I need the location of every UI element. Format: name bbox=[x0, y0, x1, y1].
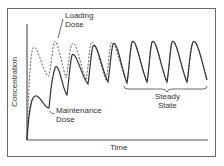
loading-dose-leader bbox=[58, 19, 63, 38]
loading-dose-label-1: Loading bbox=[65, 12, 93, 20]
maintenance-dose-label-2: Dose bbox=[56, 116, 75, 124]
loading-dose-curve bbox=[27, 41, 207, 140]
x-axis-label: Time bbox=[110, 144, 127, 152]
y-axis-label: Concentration bbox=[11, 52, 19, 112]
maintenance-dose-leader bbox=[50, 111, 55, 114]
steady-state-label-2: State bbox=[158, 102, 177, 110]
maintenance-dose-curve bbox=[27, 41, 207, 140]
maintenance-dose-label-1: Maintenance bbox=[56, 107, 102, 115]
steady-state-label-1: Steady bbox=[155, 93, 180, 101]
loading-dose-label-2: Dose bbox=[65, 21, 84, 29]
chart-plot bbox=[0, 0, 224, 166]
